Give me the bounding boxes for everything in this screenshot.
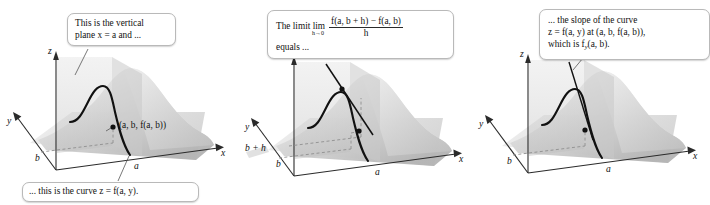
y-tick-label-b-plus-h: b + h (245, 142, 266, 153)
curve-callout: ... this is the curve z = f(a, y). (22, 182, 199, 202)
limit-callout: The limit lim h→0 f(a, b + h) − f(a, b) … (267, 10, 454, 59)
y-tick-label-b: b (507, 155, 512, 166)
limit-subscript: h→0 (312, 30, 324, 36)
limit-operator: The limit lim h→0 (276, 21, 326, 33)
difference-quotient-numerator: f(a, b + h) − f(a, b) (329, 16, 403, 27)
vertical-cutting-plane (529, 60, 614, 159)
slope-callout-line3: which is fy(a, b). (548, 38, 702, 53)
secant-point-lower (356, 128, 361, 133)
secant-point-upper (339, 86, 344, 91)
z-axis-label: z (48, 45, 52, 56)
y-tick-label-b: b (276, 158, 281, 169)
vertical-plane-callout-line2: plane x = a and ... (75, 30, 169, 42)
z-axis-label: z (520, 48, 524, 59)
difference-quotient: f(a, b + h) − f(a, b) h (329, 16, 403, 38)
vertical-cutting-plane (295, 62, 380, 162)
slope-callout-line1: ... the slope of the curve (548, 14, 702, 26)
x-axis-label: x (693, 150, 697, 161)
panel-secant-limit: z y x b + h b a The limit lim h→0 f(a, b… (236, 0, 472, 203)
vertical-plane-callout: This is the vertical plane x = a and ... (67, 13, 176, 46)
slope-callout-line3-pre: which is f (548, 39, 585, 49)
x-axis-label: x (459, 153, 463, 164)
point-label: (a, b, f(a, b)) (119, 120, 166, 130)
x-axis-label: x (221, 147, 225, 158)
vertical-cutting-plane (57, 57, 142, 156)
panel-vertical-plane: z y x b a (a, b, f(a, b)) This is the ve… (0, 0, 236, 203)
vertical-plane-callout-line1: This is the vertical (75, 18, 169, 30)
curve-callout-text: ... this is the curve z = f(a, y). (29, 186, 192, 198)
limit-tail-text: equals ... (276, 42, 446, 54)
y-axis-label: y (245, 121, 249, 132)
y-tick-label-b: b (35, 152, 40, 163)
x-tick-label-a: a (134, 160, 139, 171)
slope-callout-line3-post: (a, b). (588, 39, 610, 49)
slope-callout: ... the slope of the curve z = f(a, y) a… (539, 9, 710, 60)
tangent-point-marker (582, 127, 587, 132)
slope-callout-line2: z = f(a, y) at (a, b, f(a, b)), (548, 26, 702, 38)
y-axis-label: y (7, 115, 11, 126)
x-tick-label-a: a (375, 166, 380, 177)
y-axis-label: y (479, 118, 483, 129)
x-tick-label-a: a (606, 163, 611, 174)
panel-tangent-slope: z y x b a ... the slope of the curve z =… (472, 0, 708, 203)
difference-quotient-denominator: h (329, 27, 403, 39)
point-marker (110, 124, 115, 129)
